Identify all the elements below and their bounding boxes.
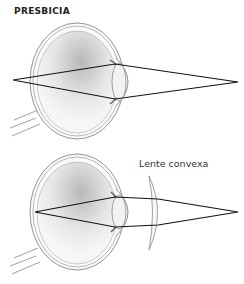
crystalline-lens (112, 195, 126, 229)
crystalline-lens (112, 63, 126, 101)
optic-nerve (10, 110, 40, 136)
eye-uncorrected (10, 23, 238, 139)
convex-lens (149, 176, 158, 250)
optic-nerve (10, 248, 40, 274)
eye-corrected (10, 154, 238, 274)
vitreous (37, 162, 117, 264)
vitreous (37, 31, 117, 133)
presbyopia-diagram (0, 0, 244, 284)
